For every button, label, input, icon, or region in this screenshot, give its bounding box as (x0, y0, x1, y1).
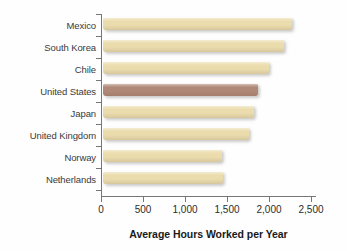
bar-row (103, 39, 284, 52)
category-label-united-kingdom: United Kingdom (0, 130, 96, 141)
bar-netherlands[interactable] (103, 171, 223, 184)
bar-united-kingdom[interactable] (103, 127, 249, 140)
x-axis-line (101, 196, 316, 197)
bar-row (103, 105, 254, 118)
category-label-netherlands: Netherlands (0, 174, 96, 185)
x-tick-label-500: 500 (135, 204, 152, 216)
y-axis-tick (96, 14, 102, 15)
bar-norway[interactable] (103, 149, 222, 162)
bar-row (103, 83, 258, 96)
category-axis: Mexico South Korea Chile United States J… (0, 17, 96, 193)
x-tick-label-2500: 2,500 (298, 204, 323, 216)
bar-row (103, 127, 249, 140)
bar-row (103, 61, 269, 74)
x-tick-label-1000: 1,000 (172, 204, 197, 216)
bar-row (103, 171, 223, 184)
x-axis-tick (227, 196, 228, 202)
x-tick-label-1500: 1,500 (214, 204, 239, 216)
y-axis-tick (96, 102, 102, 103)
y-axis-tick (96, 36, 102, 37)
category-label-chile: Chile (0, 64, 96, 75)
x-axis-tick (269, 196, 270, 202)
x-axis-tick (143, 196, 144, 202)
y-axis-tick (96, 124, 102, 125)
category-label-norway: Norway (0, 152, 96, 163)
x-tick-label-0: 0 (98, 204, 104, 216)
bar-row (103, 17, 292, 30)
x-axis-title: Average Hours Worked per Year (101, 228, 316, 240)
x-axis-tick (311, 196, 312, 202)
x-tick-label-2000: 2,000 (256, 204, 281, 216)
bar-united-states[interactable] (103, 83, 258, 96)
plot-area (101, 14, 316, 196)
bar-mexico[interactable] (103, 17, 292, 30)
y-axis-tick (96, 190, 102, 191)
category-label-mexico: Mexico (0, 20, 96, 31)
y-axis-tick (96, 146, 102, 147)
category-label-united-states: United States (0, 86, 96, 97)
x-axis-tick (185, 196, 186, 202)
category-label-japan: Japan (0, 108, 96, 119)
bar-south-korea[interactable] (103, 39, 284, 52)
y-axis-tick (96, 58, 102, 59)
bar-japan[interactable] (103, 105, 254, 118)
y-axis-tick (96, 80, 102, 81)
x-axis-tick (101, 196, 102, 202)
bar-chile[interactable] (103, 61, 269, 74)
category-label-south-korea: South Korea (0, 42, 96, 53)
bar-row (103, 149, 222, 162)
bar-chart: Mexico South Korea Chile United States J… (0, 0, 347, 251)
y-axis-tick (96, 168, 102, 169)
